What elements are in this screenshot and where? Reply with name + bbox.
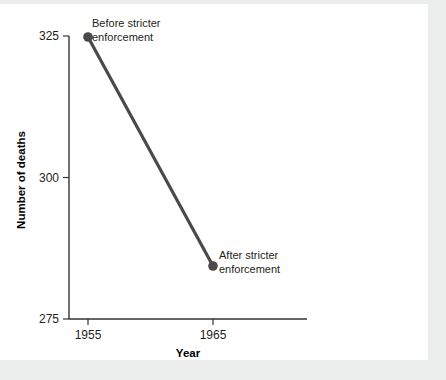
x-tick-label-1965: 1965 [200,328,227,342]
data-line-segment [88,37,213,266]
line-chart: 325 300 275 1955 1965 Year Number of dea… [0,0,446,380]
y-tick-label-300: 300 [39,171,59,185]
annotation-before-line1: Before stricter [92,17,161,29]
annotation-after-line2: enforcement [219,263,280,275]
x-axis-title: Year [176,347,201,359]
x-tick-label-1955: 1955 [75,328,102,342]
y-tick-label-325: 325 [39,29,59,43]
annotation-after-line1: After stricter [219,249,279,261]
figure-root: 325 300 275 1955 1965 Year Number of dea… [0,0,446,380]
y-tick-label-275: 275 [39,312,59,326]
annotation-before-line2: enforcement [92,31,153,43]
data-point-1965 [208,261,218,271]
y-axis-title: Number of deaths [15,131,27,229]
